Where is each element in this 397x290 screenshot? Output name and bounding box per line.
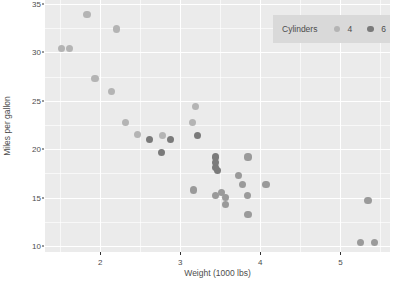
data-point bbox=[364, 197, 371, 204]
data-point bbox=[244, 153, 251, 160]
data-point bbox=[58, 45, 65, 52]
gridline-major-horizontal bbox=[45, 4, 390, 5]
legend-key bbox=[363, 22, 378, 37]
y-axis-tick-label: 15 bbox=[15, 193, 41, 202]
data-point bbox=[222, 194, 229, 201]
y-axis-tick-mark bbox=[42, 149, 45, 150]
data-point bbox=[194, 132, 201, 139]
y-axis-tick-mark bbox=[42, 246, 45, 247]
y-axis-tick-labels: 101520253035 bbox=[12, 0, 41, 252]
x-axis-tick-label: 2 bbox=[88, 258, 112, 267]
data-point bbox=[192, 103, 199, 110]
data-point bbox=[357, 239, 364, 246]
legend-key bbox=[329, 22, 344, 37]
gridline-minor-vertical bbox=[220, 0, 221, 252]
y-axis-tick-mark bbox=[42, 100, 45, 101]
gridline-major-horizontal bbox=[45, 149, 390, 150]
y-axis-tick-mark bbox=[42, 3, 45, 4]
gridline-major-horizontal bbox=[45, 52, 390, 53]
gridline-major-vertical bbox=[180, 0, 181, 252]
x-axis-tick-mark bbox=[100, 252, 101, 255]
data-point bbox=[108, 88, 115, 95]
gridline-major-horizontal bbox=[45, 246, 390, 247]
legend-label: 6 bbox=[381, 24, 386, 34]
y-axis-tick-label: 30 bbox=[15, 48, 41, 57]
x-axis-tick-label: 3 bbox=[168, 258, 192, 267]
data-point bbox=[83, 11, 90, 18]
y-axis-tick-label: 10 bbox=[15, 242, 41, 251]
x-axis-tick-mark bbox=[340, 252, 341, 255]
legend-item[interactable]: 6 bbox=[363, 22, 386, 37]
gridline-minor-horizontal bbox=[45, 125, 390, 126]
y-axis-tick-label: 35 bbox=[15, 0, 41, 8]
data-point bbox=[262, 181, 269, 188]
legend-item[interactable]: 4 bbox=[329, 22, 352, 37]
legend-dot-icon bbox=[334, 26, 341, 33]
gridline-minor-vertical bbox=[140, 0, 141, 252]
plot-panel: Cylinders 468 bbox=[45, 0, 390, 252]
data-point bbox=[167, 136, 174, 143]
scatter-plot-figure: Miles per gallon 101520253035 Cylinders … bbox=[0, 0, 397, 290]
legend-title: Cylinders bbox=[282, 24, 317, 34]
x-axis-tick-label: 4 bbox=[248, 258, 272, 267]
gridline-major-horizontal bbox=[45, 101, 390, 102]
gridline-minor-vertical bbox=[60, 0, 61, 252]
data-point bbox=[214, 167, 221, 174]
legend-label: 4 bbox=[347, 24, 352, 34]
y-axis-tick-mark bbox=[42, 197, 45, 198]
y-axis-tick-mark bbox=[42, 52, 45, 53]
gridline-minor-horizontal bbox=[45, 222, 390, 223]
data-point bbox=[222, 201, 229, 208]
legend[interactable]: Cylinders 468 bbox=[273, 15, 390, 43]
data-point bbox=[244, 211, 251, 218]
data-point bbox=[91, 75, 98, 82]
data-point bbox=[189, 119, 196, 126]
gridline-major-vertical bbox=[260, 0, 261, 252]
x-axis-tick-mark bbox=[180, 252, 181, 255]
data-point bbox=[113, 25, 120, 32]
data-point bbox=[235, 172, 242, 179]
data-point bbox=[158, 149, 165, 156]
x-axis-tick-label: 5 bbox=[328, 258, 352, 267]
data-point bbox=[66, 45, 73, 52]
y-axis-title-text: Miles per gallon bbox=[2, 96, 12, 156]
legend-dot-icon bbox=[367, 26, 374, 33]
x-axis-title: Weight (1000 lbs) bbox=[45, 268, 390, 278]
y-axis-tick-label: 20 bbox=[15, 145, 41, 154]
data-point bbox=[146, 136, 153, 143]
legend-items: 468 bbox=[329, 22, 390, 37]
data-point bbox=[190, 186, 197, 193]
y-axis-tick-label: 25 bbox=[15, 96, 41, 105]
data-point bbox=[159, 132, 166, 139]
data-point bbox=[371, 239, 378, 246]
gridline-major-vertical bbox=[100, 0, 101, 252]
data-point bbox=[239, 181, 246, 188]
x-axis-tick-mark bbox=[260, 252, 261, 255]
